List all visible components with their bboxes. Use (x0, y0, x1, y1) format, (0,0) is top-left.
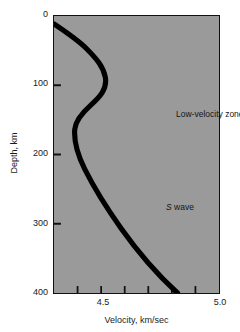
y-tick-label-200: 200 (20, 149, 48, 158)
plot-area: Low-velocity zone S wave (53, 15, 220, 294)
y-axis-title: Depth, km (9, 113, 19, 193)
low-velocity-zone-annotation: Low-velocity zone (176, 109, 240, 119)
x-axis-title: Velocity, km/sec (53, 315, 220, 325)
s-wave-curve (54, 16, 219, 293)
y-tick-label-100: 100 (20, 79, 48, 88)
s-wave-annotation: S wave (166, 202, 194, 212)
y-tick-label-0: 0 (20, 10, 48, 19)
x-tick-label-5-0: 5.0 (200, 298, 240, 307)
y-tick-label-400: 400 (20, 288, 48, 297)
figure-container: 0 100 200 300 400 4.5 5.0 Velocity, km/s… (0, 0, 240, 332)
x-tick-label-4-5: 4.5 (83, 298, 123, 307)
y-tick-label-300: 300 (20, 219, 48, 228)
s-wave-word: wave (172, 202, 194, 212)
y-tick-marks (54, 85, 61, 224)
s-wave-path (54, 24, 178, 293)
